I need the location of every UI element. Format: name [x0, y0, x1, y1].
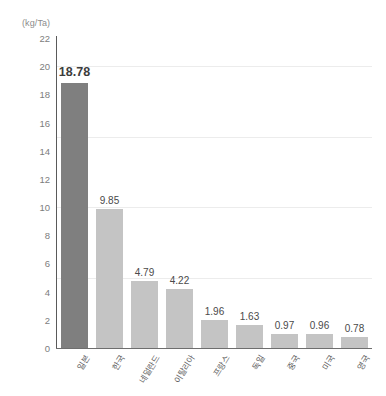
- x-axis-category-label: 미국: [318, 352, 336, 372]
- bar: [271, 334, 298, 348]
- bar: [166, 289, 193, 348]
- bar-value-label: 4.22: [170, 275, 189, 286]
- x-axis-category-label: 일본: [73, 352, 91, 372]
- gridline: [57, 207, 372, 208]
- bar-value-label: 4.79: [135, 267, 154, 278]
- y-axis-tick-label: 8: [10, 230, 50, 241]
- y-axis-tick-label: 22: [10, 33, 50, 44]
- y-axis-tick-label: 10: [10, 202, 50, 213]
- bar: [236, 325, 263, 348]
- bar: [61, 83, 88, 348]
- gridline: [57, 66, 372, 67]
- y-axis-tick-label: 12: [10, 173, 50, 184]
- bar-value-label: 0.96: [310, 320, 329, 331]
- y-axis-unit-label: (kg/Ta): [22, 18, 50, 28]
- bar-value-label: 0.97: [275, 320, 294, 331]
- bar-value-label: 9.85: [100, 195, 119, 206]
- gridline: [57, 137, 372, 138]
- bar-value-label: 1.63: [240, 311, 259, 322]
- bar-value-label: 18.78: [59, 65, 90, 79]
- bar: [96, 209, 123, 348]
- y-axis-tick-label: 20: [10, 61, 50, 72]
- x-axis-category-label: 중국: [283, 352, 301, 372]
- bar-chart: (kg/Ta) 0246810121416182022 18.789.854.7…: [0, 0, 386, 396]
- y-axis-tick-label: 16: [10, 117, 50, 128]
- y-axis-tick-label: 2: [10, 314, 50, 325]
- x-axis-category-label: 한국: [108, 352, 126, 372]
- y-axis-tick-label: 6: [10, 258, 50, 269]
- y-axis-tick-label: 4: [10, 286, 50, 297]
- bar: [306, 334, 333, 348]
- x-axis-category-label: 영국: [353, 352, 371, 372]
- x-axis-line: [56, 348, 372, 349]
- bar: [341, 337, 368, 348]
- x-axis-category-label: 독일: [248, 352, 266, 372]
- x-axis-category-label: 이탈리아: [170, 352, 197, 385]
- y-axis-tick-label: 18: [10, 89, 50, 100]
- x-axis-category-label: 프랑스: [209, 352, 232, 378]
- bar-value-label: 1.96: [205, 306, 224, 317]
- y-axis-tick-label: 0: [10, 343, 50, 354]
- y-axis-tick-label: 14: [10, 145, 50, 156]
- x-axis-category-label: 네덜란드: [135, 352, 162, 385]
- bar: [201, 320, 228, 348]
- bar-value-label: 0.78: [345, 323, 364, 334]
- bar: [131, 281, 158, 348]
